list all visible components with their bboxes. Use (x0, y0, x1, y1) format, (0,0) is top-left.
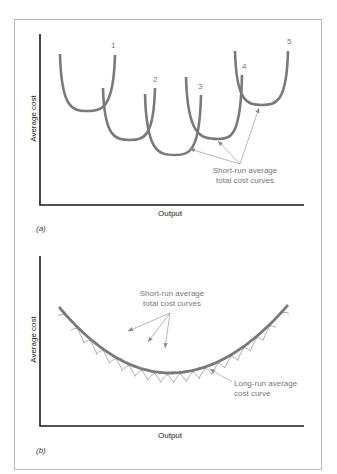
short-run-curve-4 (186, 75, 242, 139)
annotation-arrow (128, 313, 170, 331)
short-run-curve-1 (60, 54, 115, 111)
curve-label-5: 5 (287, 37, 291, 46)
panel-b-y-axis-label: Average cost (29, 312, 38, 368)
curve-label-1: 1 (111, 41, 115, 50)
annotation-arrow (210, 369, 232, 382)
panel-b-long-run-annotation-line-1: Long-run average (234, 379, 297, 389)
figure-svg (0, 0, 337, 474)
panel-b-tag: (b) (36, 446, 46, 455)
panel-a-y-axis-label: Average cost (29, 91, 38, 147)
annotation-arrow (240, 108, 259, 164)
panel-a-annotation-line-1: Short-run average (207, 166, 283, 176)
panel-a-annotation-line-2: total cost curves (207, 176, 283, 186)
curve-label-2: 2 (153, 75, 157, 84)
panel-b-short-run-annotation-line-1: Short-run average (133, 289, 211, 299)
panel-a-x-axis-label: Output (158, 209, 182, 218)
panel-b-long-run-annotation-line-2: cost curve (234, 389, 270, 399)
axes (40, 256, 304, 426)
curve-label-4: 4 (242, 62, 246, 71)
panel-a-tag: (a) (36, 224, 46, 233)
panel-b-x-axis-label: Output (158, 431, 182, 440)
curve-label-3: 3 (198, 82, 202, 91)
panel-b-chart (40, 256, 304, 426)
panel-b-short-run-annotation-line-2: total cost curves (133, 299, 211, 309)
long-run-average-cost-curve (59, 305, 288, 373)
